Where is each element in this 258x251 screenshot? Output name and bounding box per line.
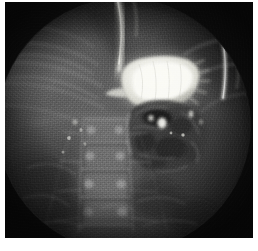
radiograph-page: [0, 0, 258, 251]
radiograph-canvas: [5, 2, 253, 238]
radiograph-plate: [5, 2, 253, 238]
